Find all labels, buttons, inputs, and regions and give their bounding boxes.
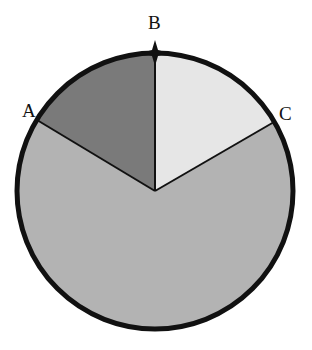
label-c: C (279, 103, 292, 124)
circle-diagram: B A C (0, 0, 312, 350)
label-a: A (22, 100, 36, 121)
label-b: B (148, 12, 161, 33)
